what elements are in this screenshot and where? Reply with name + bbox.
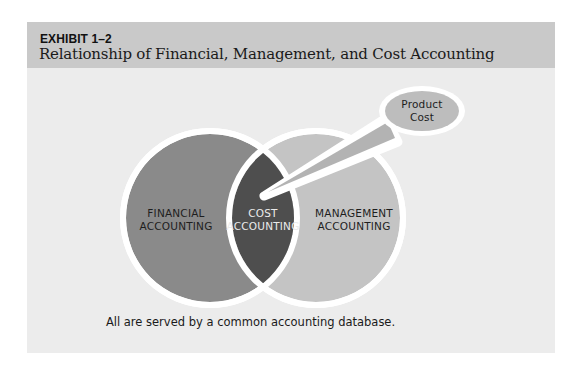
callout-label-line1: Product	[401, 98, 442, 110]
financial-label-line1: FINANCIAL	[147, 207, 204, 219]
management-label-line1: MANAGEMENT	[315, 207, 393, 219]
cost-label-line1: COST	[248, 207, 278, 219]
callout-label-line2: Cost	[410, 111, 434, 123]
management-label-line2: ACCOUNTING	[318, 220, 391, 232]
cost-label-line2: ACCOUNTING	[227, 220, 300, 232]
diagram-caption: All are served by a common accounting da…	[0, 315, 581, 329]
financial-label-line2: ACCOUNTING	[140, 220, 213, 232]
